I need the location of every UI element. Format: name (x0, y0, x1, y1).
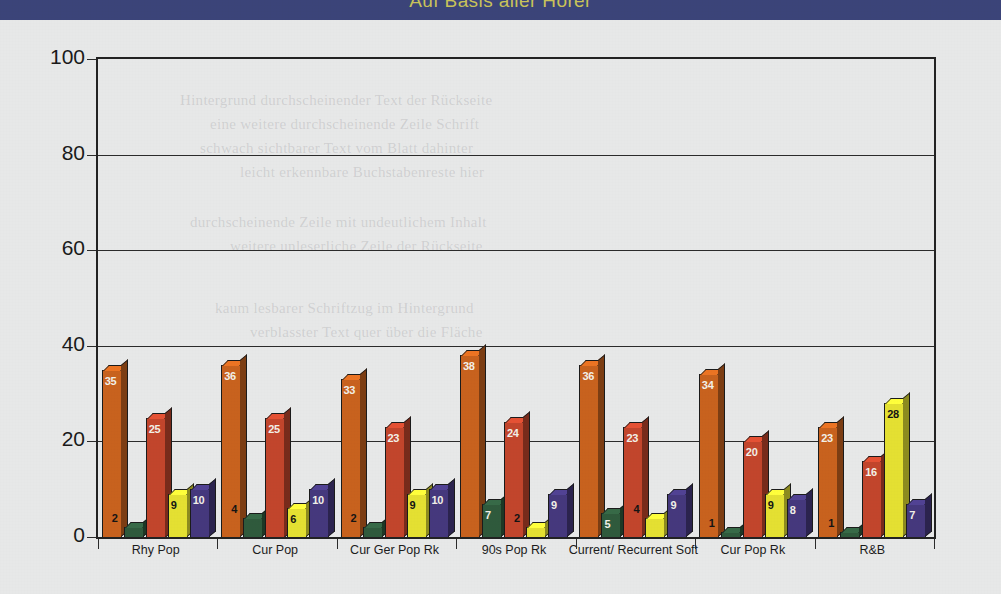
bar: 2 (363, 527, 383, 537)
bar: 2 (124, 527, 144, 537)
y-axis-tick-mark (87, 59, 96, 60)
bar: 7 (906, 504, 926, 537)
y-axis-tick-label: 0 (25, 523, 85, 547)
bar-value-label: 7 (485, 509, 491, 521)
x-axis-tick-mark (576, 539, 577, 549)
bar-value-label: 10 (432, 494, 444, 506)
y-axis-tick-label: 60 (25, 236, 85, 260)
y-axis-tick-label: 20 (25, 427, 85, 451)
bar-group: 33223910 (337, 59, 456, 537)
bar: 38 (460, 355, 480, 537)
bar: 9 (667, 494, 687, 537)
bar-value-label: 1 (828, 517, 834, 529)
y-axis-tick-mark (87, 250, 96, 251)
bar-value-label: 2 (112, 512, 118, 524)
bar-value-label: 8 (790, 504, 796, 516)
bar-side-face (567, 483, 574, 537)
x-axis-tick-mark (456, 539, 457, 549)
x-axis-tick-mark (98, 539, 99, 549)
bar-value-label: 16 (865, 466, 877, 478)
bar: 10 (190, 489, 210, 537)
x-axis-tick-label: Current/ Recurrent Soft (569, 543, 698, 557)
bar-side-face (806, 488, 813, 537)
bar-value-label: 9 (768, 499, 774, 511)
bar-value-label: 6 (290, 513, 296, 525)
bar-value-label: 38 (463, 360, 475, 372)
bar-value-label: 10 (193, 494, 205, 506)
bar-value-label: 36 (582, 370, 594, 382)
x-axis-tick-mark (337, 539, 338, 549)
bar-value-label: 33 (344, 384, 356, 396)
y-axis-tick-mark (87, 155, 96, 156)
bar-value-label: 9 (670, 499, 676, 511)
bar: 16 (862, 461, 882, 537)
bar-value-label: 28 (887, 408, 899, 420)
bar-side-face (240, 354, 247, 537)
x-axis-tick-mark (217, 539, 218, 549)
bar-value-label: 23 (821, 432, 833, 444)
bar-value-label: 10 (312, 494, 324, 506)
x-axis-tick-mark (815, 539, 816, 549)
bar: 4 (243, 518, 263, 537)
bar-value-label: 36 (224, 370, 236, 382)
bar: 25 (146, 418, 166, 538)
bar-side-face (718, 364, 725, 537)
bars-layer: 3522591036425610332239103872429365234934… (98, 59, 934, 537)
bar: 7 (482, 504, 502, 537)
bar: 9 (765, 494, 785, 537)
bar-value-label: 25 (268, 423, 280, 435)
bar-group: 3412098 (695, 59, 814, 537)
bar-side-face (686, 483, 693, 537)
bar-group: 36425610 (217, 59, 336, 537)
bar-group: 3652349 (576, 59, 695, 537)
bar: 2 (526, 527, 546, 537)
bar-side-face (121, 359, 128, 537)
x-axis-tick-label: Cur Pop Rk (721, 543, 786, 557)
chart-page: Auf Basis aller Hörer Hintergrund durchs… (0, 0, 1001, 594)
bar-value-label: 2 (514, 512, 520, 524)
bar-side-face (523, 411, 530, 537)
bar: 20 (743, 441, 763, 537)
bar-value-label: 4 (633, 503, 639, 515)
bar-value-label: 1 (709, 517, 715, 529)
bar: 25 (265, 418, 285, 538)
bar-group: 23116287 (815, 59, 934, 537)
bar-side-face (598, 354, 605, 537)
bar-value-label: 25 (149, 423, 161, 435)
bar-value-label: 5 (604, 518, 610, 530)
bar-value-label: 9 (171, 499, 177, 511)
bar-value-label: 4 (231, 503, 237, 515)
bar: 28 (884, 403, 904, 537)
header-band: Auf Basis aller Hörer (0, 0, 1001, 20)
y-axis-tick-mark (87, 346, 96, 347)
y-axis-tick-label: 80 (25, 141, 85, 165)
bar-value-label: 23 (626, 432, 638, 444)
page-title: Auf Basis aller Hörer (0, 0, 1001, 12)
bar: 9 (407, 494, 427, 537)
bar-side-face (925, 493, 932, 537)
x-axis-tick-label: Cur Ger Pop Rk (350, 543, 439, 557)
bar-value-label: 23 (388, 432, 400, 444)
bar: 34 (699, 374, 719, 537)
bar: 10 (309, 489, 329, 537)
bar: 1 (840, 532, 860, 537)
bar: 10 (429, 489, 449, 537)
bar-value-label: 9 (551, 499, 557, 511)
bar-value-label: 34 (702, 379, 714, 391)
x-axis-tick-label: R&B (859, 543, 885, 557)
y-axis-tick-mark (87, 441, 96, 442)
bar-side-face (328, 478, 335, 537)
bar-value-label: 9 (410, 499, 416, 511)
x-axis-tick-label: Cur Pop (252, 543, 298, 557)
y-axis-tick-mark (87, 537, 96, 538)
bar: 8 (787, 499, 807, 537)
bar-value-label: 24 (507, 427, 519, 439)
bar: 1 (721, 532, 741, 537)
y-axis-tick-label: 100 (25, 45, 85, 69)
bar: 6 (287, 508, 307, 537)
x-axis-tick-mark (695, 539, 696, 549)
bar-side-face (360, 368, 367, 537)
bar-value-label: 35 (105, 375, 117, 387)
bar-side-face (448, 478, 455, 537)
bar: 4 (645, 518, 665, 537)
